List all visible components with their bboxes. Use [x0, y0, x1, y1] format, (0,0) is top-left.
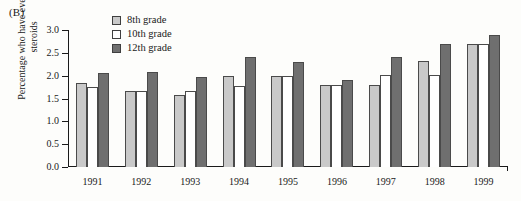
bar: [342, 80, 353, 167]
bar: [174, 95, 185, 167]
bar: [147, 72, 158, 167]
x-tick-label: 1997: [376, 176, 396, 187]
y-tick-label: 3.0: [47, 25, 60, 35]
bar-groups: 199119921993199419951996199719981999: [68, 30, 508, 167]
bar: [98, 73, 109, 167]
y-tick-label: 1.0: [47, 116, 60, 126]
x-tick-label: 1998: [425, 176, 445, 187]
bar: [440, 44, 451, 167]
y-tick-label: 2.0: [47, 71, 60, 81]
bar: [76, 83, 87, 167]
legend-label: 8th grade: [127, 15, 166, 26]
bar: [282, 76, 293, 167]
y-tick-label: 2.5: [47, 48, 60, 58]
bar: [478, 44, 489, 167]
bar: [391, 57, 402, 167]
chart-figure: (B) Percentage who have ever used steroi…: [0, 0, 521, 201]
x-tick-label: 1994: [229, 176, 249, 187]
bar: [245, 57, 256, 167]
x-tick-label: 1991: [82, 176, 102, 187]
y-axis-title: Percentage who have ever used steroids: [16, 0, 40, 110]
bar: [271, 76, 282, 167]
bar: [87, 87, 98, 167]
bar-group-1993: 1993: [166, 30, 215, 167]
bar: [223, 76, 234, 167]
y-tick-label: 1.5: [47, 94, 60, 104]
bar: [489, 35, 500, 167]
bar: [320, 85, 331, 167]
bar-group-1996: 1996: [312, 30, 361, 167]
bar: [136, 91, 147, 167]
legend-swatch-g8: [112, 16, 121, 25]
y-tick-label: 0.0: [47, 162, 60, 172]
bar-group-1999: 1999: [459, 30, 508, 167]
bar: [185, 91, 196, 167]
x-tick-label: 1993: [180, 176, 200, 187]
bar-group-1992: 1992: [117, 30, 166, 167]
bar: [467, 44, 478, 167]
bar: [196, 77, 207, 167]
x-tick-label: 1992: [131, 176, 151, 187]
bar: [380, 75, 391, 167]
bar: [331, 85, 342, 167]
bar-group-1991: 1991: [68, 30, 117, 167]
bar: [369, 85, 380, 167]
bar-group-1994: 1994: [215, 30, 264, 167]
x-tick-label: 1999: [474, 176, 494, 187]
bar-group-1998: 1998: [410, 30, 459, 167]
bar: [125, 91, 136, 167]
plot-area: 0.00.51.01.52.02.53.0 199119921993199419…: [68, 30, 508, 167]
bar-group-1997: 1997: [361, 30, 410, 167]
bar: [234, 86, 245, 167]
bar: [429, 75, 440, 167]
legend-item-g8: 8th grade: [112, 13, 172, 27]
y-tick-label: 0.5: [47, 139, 60, 149]
bar: [418, 61, 429, 167]
bar-group-1995: 1995: [264, 30, 313, 167]
x-tick-label: 1995: [278, 176, 298, 187]
x-tick-label: 1996: [327, 176, 347, 187]
bar: [293, 62, 304, 167]
y-tick: [62, 167, 68, 168]
